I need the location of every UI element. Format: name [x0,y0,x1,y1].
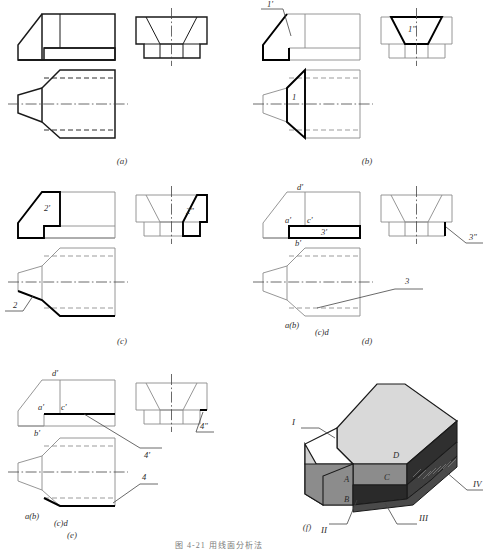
panel-a: (a) [0,0,245,175]
front-view-c [18,192,115,238]
panel-e-drawing: d' a' c' b' 4' [0,362,245,550]
panel-f: I II III IV A B C D (f) [245,372,490,550]
front-view-b [263,14,360,60]
surface-1-front-highlight [263,14,289,60]
label-a-prime-front-e: a' [38,402,44,412]
label-2-side: 2" [186,206,194,216]
leader-3-top [317,289,423,308]
label-c-prime-front-e: c' [61,402,67,412]
front-view-a [18,14,115,60]
label-4-top: 4 [142,472,147,482]
label-4-side: 4" [200,421,208,431]
label-2-top: 2 [13,300,18,310]
label-3-side: 3" [468,232,477,242]
label-ab-top: a(b) [285,320,299,330]
label-vertex-a: A [343,474,350,484]
panel-c: 2' 2" [0,178,245,356]
label-d-prime-front: d' [297,182,303,192]
panel-c-drawing: 2' 2" [0,178,245,356]
label-3-top: 3 [404,276,409,286]
label-vertex-b: B [344,494,349,504]
leader-4-front [84,414,162,448]
panel-e-caption: (e) [52,530,92,540]
label-roman-1: I [291,417,296,427]
label-4-prime-front: 4' [144,450,150,460]
surface-2-front-highlight [18,192,60,238]
figure-bottom-caption: 图 4-21 用线面分析法 [175,539,263,550]
label-1-side: 1" [408,24,416,34]
label-d-prime-front-e: d' [52,368,58,378]
label-roman-3: III [418,513,429,523]
side-view-a-groove [144,17,200,58]
label-1-front: 1' [267,0,273,9]
surface-4-top-highlight [44,498,115,506]
panel-a-caption: (a) [102,156,142,166]
label-vertex-d: D [392,450,400,460]
panel-b-caption: (b) [347,156,387,166]
label-3-prime-front: 3' [320,227,327,237]
label-2-front: 2' [44,203,50,213]
panel-d-drawing: d' a' c' 3' 3" [245,178,490,356]
label-b-prime-top: b' [295,238,301,248]
panel-e: d' a' c' b' 4' [0,362,245,550]
leader-4-top [113,484,158,503]
panel-d: d' a' c' 3' 3" [245,178,490,356]
panel-a-drawing [0,0,245,175]
label-ab-top-e: a(b) [25,511,39,521]
label-c-prime-front: c' [307,215,313,225]
drawing-sheet: (a) 1' [0,0,490,550]
panel-b: 1' 1" [245,0,490,175]
panel-c-caption: (c) [102,336,142,346]
label-a-prime-front: a' [285,215,291,225]
leader-3-side [446,227,483,243]
leader-1-front [261,9,291,36]
panel-f-caption: (f) [287,522,327,532]
label-b-prime-front-e: b' [34,428,40,438]
label-cd-top: (c)d [315,327,329,337]
label-cd-top-e: (c)d [54,518,68,528]
panel-f-isometric: I II III IV A B C D [245,372,490,550]
leader-2-top [5,296,33,311]
label-roman-4: IV [472,479,483,489]
surface-2-top-highlight [18,291,115,316]
panel-d-caption: (d) [347,336,387,346]
label-vertex-c: C [384,472,390,482]
label-1-top: 1 [292,92,296,102]
panel-b-drawing: 1' 1" [245,0,490,175]
